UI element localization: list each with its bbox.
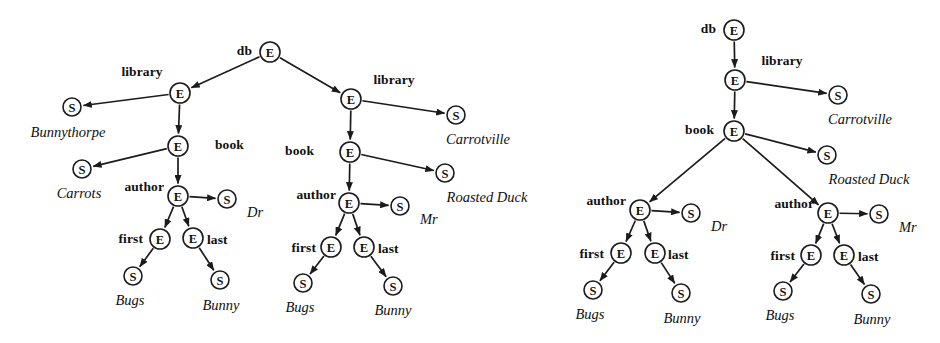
element-node: E — [339, 193, 359, 213]
node-glyph-label: E — [360, 241, 368, 255]
element-node: E — [341, 89, 361, 109]
edge-tag-label: db — [701, 21, 716, 37]
tree-edge — [165, 207, 174, 228]
tree-edge — [182, 207, 189, 226]
leaf-value-label: Carrotville — [446, 131, 510, 148]
string-node: S — [584, 281, 602, 299]
edge-tag-label: author — [586, 193, 626, 209]
string-node: S — [682, 204, 700, 222]
edge-tag-label: book — [215, 137, 244, 153]
tree-edge — [650, 138, 726, 202]
element-node: E — [818, 203, 838, 223]
node-glyph-label: S — [590, 284, 597, 298]
node-glyph-label: S — [390, 280, 397, 294]
element-node: E — [834, 245, 854, 265]
edge-tag-label: last — [858, 249, 879, 265]
leaf-value-label: Mr — [899, 219, 917, 236]
leaf-value-label: Bunny — [202, 297, 239, 314]
tree-edge — [350, 110, 351, 139]
tree-edge — [661, 263, 674, 284]
string-node: S — [218, 190, 236, 208]
node-glyph-label: E — [174, 140, 182, 154]
string-node: S — [63, 98, 81, 116]
leaf-value-label: Bugs — [576, 306, 605, 323]
string-node: S — [447, 106, 465, 124]
xml-tree-figure: EESESESEESSESESESEESSEESESESEESSESEESS d… — [0, 0, 940, 343]
leaf-value-label: Bunny — [663, 310, 700, 327]
edge-tag-label: first — [119, 231, 144, 247]
node-glyph-label: E — [807, 249, 815, 263]
edge-tag-label: last — [378, 241, 399, 257]
element-node: E — [168, 186, 188, 206]
node-glyph-label: E — [346, 146, 354, 160]
edge-tag-label: book — [685, 122, 714, 138]
leaf-value-label: Bunny — [853, 311, 890, 328]
tree-edge — [839, 213, 867, 214]
node-glyph-label: E — [617, 247, 625, 261]
edge-tag-label: author — [296, 187, 336, 203]
leaf-value-label: Dr — [711, 218, 727, 235]
tree-edge — [734, 41, 735, 67]
element-node: E — [645, 243, 665, 263]
element-node: E — [168, 136, 188, 156]
element-node: E — [321, 237, 341, 257]
node-glyph-label: E — [731, 74, 739, 88]
edge-tag-label: author — [774, 196, 814, 212]
tree-edge — [310, 256, 324, 274]
element-node: E — [170, 83, 190, 103]
edge-tag-label: library — [121, 64, 162, 80]
tree-edge — [626, 221, 635, 242]
leaf-value-label: Carrots — [57, 185, 102, 202]
node-glyph-label: S — [824, 149, 831, 163]
node-glyph-label: S — [835, 89, 842, 103]
string-node: S — [672, 284, 690, 302]
node-glyph-label: E — [730, 24, 738, 38]
tree-edge — [644, 221, 651, 241]
node-glyph-label: E — [176, 87, 184, 101]
leaf-value-label: Dr — [247, 204, 263, 221]
leaf-value-label: Roasted Duck — [829, 171, 910, 188]
node-glyph-label: S — [442, 167, 449, 181]
tree-edge — [191, 57, 259, 88]
node-glyph-label: E — [730, 125, 738, 139]
element-node: E — [724, 121, 744, 141]
node-glyph-label: S — [224, 193, 231, 207]
element-node: E — [630, 200, 650, 220]
string-node: S — [73, 160, 91, 178]
string-node: S — [862, 285, 880, 303]
node-glyph-label: E — [824, 207, 832, 221]
node-glyph-label: E — [189, 232, 197, 246]
tree-edge — [360, 204, 388, 206]
node-glyph-label: S — [868, 288, 875, 302]
edge-tag-label: first — [771, 248, 796, 264]
node-glyph-label: S — [217, 274, 224, 288]
tree-edge — [832, 224, 839, 244]
string-node: S — [294, 274, 312, 292]
string-node: S — [774, 282, 792, 300]
node-glyph-label: S — [678, 287, 685, 301]
node-glyph-label: S — [876, 208, 883, 222]
tree-edge — [816, 224, 824, 244]
tree-edge — [600, 262, 614, 281]
leaf-value-label: Carrotville — [828, 111, 892, 128]
string-node: S — [384, 277, 402, 295]
string-node: S — [436, 164, 454, 182]
tree-edge — [851, 264, 865, 284]
tree-edge — [336, 214, 345, 236]
edge-tag-label: last — [668, 247, 689, 263]
node-glyph-label: E — [347, 93, 355, 107]
tree-edge — [362, 101, 444, 114]
tree-edge — [280, 58, 340, 93]
leaf-value-label: Bunnythorpe — [31, 124, 106, 141]
string-node: S — [124, 267, 142, 285]
edge-tag-label: book — [285, 143, 314, 159]
node-glyph-label: S — [79, 163, 86, 177]
edge-tag-label: library — [761, 53, 802, 69]
node-glyph-label: E — [327, 241, 335, 255]
leaf-value-label: Bunny — [374, 302, 411, 319]
edges-group — [83, 41, 867, 284]
string-node: S — [211, 271, 229, 289]
element-node: E — [611, 243, 631, 263]
element-node: E — [150, 229, 170, 249]
node-glyph-label: S — [300, 277, 307, 291]
